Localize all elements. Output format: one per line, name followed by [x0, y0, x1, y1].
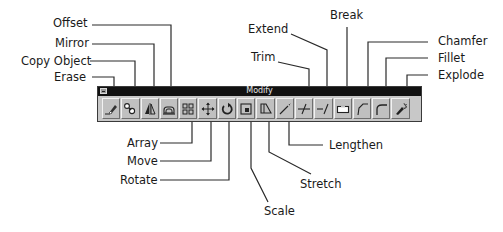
callout-break: Break — [330, 9, 363, 22]
callout-mirror: Mirror — [55, 37, 89, 50]
move-icon — [201, 102, 215, 116]
move-button[interactable] — [198, 98, 216, 119]
rotate-icon — [220, 102, 234, 116]
callout-extend: Extend — [248, 23, 288, 36]
trim-icon — [297, 102, 311, 116]
offset-button[interactable] — [160, 98, 178, 119]
copy-object-button[interactable] — [121, 98, 139, 119]
fillet-icon — [374, 102, 388, 116]
toolbar-button-row — [102, 98, 410, 120]
callout-scale: Scale — [264, 205, 295, 218]
callout-chamfer: Chamfer — [438, 35, 487, 48]
fillet-button[interactable] — [372, 98, 390, 119]
scale-icon — [239, 102, 253, 116]
callout-fillet: Fillet — [438, 52, 465, 65]
rotate-button[interactable] — [218, 98, 236, 119]
callout-offset: Offset — [53, 17, 88, 30]
break-icon — [336, 102, 350, 116]
lengthen-button[interactable] — [276, 98, 294, 119]
explode-button[interactable] — [391, 98, 409, 119]
callout-lengthen: Lengthen — [329, 139, 383, 152]
erase-button[interactable] — [102, 98, 120, 119]
array-icon — [181, 102, 195, 116]
eraser-icon — [104, 102, 118, 116]
toolbar-titlebar[interactable]: Modify — [98, 87, 421, 96]
callout-array: Array — [127, 137, 158, 150]
callout-erase: Erase — [54, 71, 86, 84]
copy-object-icon — [123, 102, 137, 116]
extend-icon — [316, 102, 330, 116]
modify-toolbar: Modify — [97, 86, 422, 122]
explode-icon — [394, 102, 408, 116]
extend-button[interactable] — [314, 98, 332, 119]
array-button[interactable] — [179, 98, 197, 119]
break-button[interactable] — [334, 98, 352, 119]
toolbar-title: Modify — [98, 85, 421, 96]
stretch-icon — [259, 102, 273, 116]
callout-trim: Trim — [251, 51, 275, 64]
callout-move: Move — [127, 155, 158, 168]
trim-button[interactable] — [295, 98, 313, 119]
chamfer-icon — [355, 102, 369, 116]
callout-copy-object: Copy Object — [21, 55, 91, 68]
callout-rotate: Rotate — [120, 174, 158, 187]
stretch-button[interactable] — [256, 98, 274, 119]
callout-explode: Explode — [438, 69, 484, 82]
mirror-button[interactable] — [141, 98, 159, 119]
offset-icon — [162, 102, 176, 116]
chamfer-button[interactable] — [353, 98, 371, 119]
lengthen-icon — [278, 102, 292, 116]
callout-stretch: Stretch — [300, 178, 341, 191]
mirror-icon — [143, 102, 157, 116]
scale-button[interactable] — [237, 98, 255, 119]
